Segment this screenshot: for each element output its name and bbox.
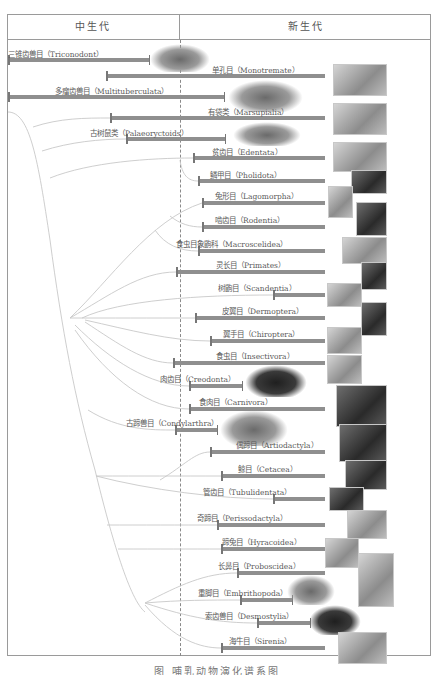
branch-marsupialia xyxy=(33,118,110,127)
fox-image xyxy=(336,385,387,427)
anteater-image xyxy=(333,142,387,172)
elephant-image xyxy=(358,553,394,607)
order-label-cetacea: 鲸目（Cetacea） xyxy=(238,463,297,474)
pangolin-image xyxy=(351,170,387,194)
range-bar-dermoptera xyxy=(195,316,325,320)
order-label-tubulidentata: 管齿目（Tubulidentata） xyxy=(203,486,291,497)
fossil-arsinoitherium-image xyxy=(287,575,335,605)
order-label-hyracoidea: 蹄兔目（Hyracoidea） xyxy=(222,536,301,547)
range-bar-scandentia xyxy=(273,293,325,297)
order-label-macroscelidea: 食虫目象鼩科（Macroscelidea） xyxy=(176,238,287,249)
fossil-reptile-like-image xyxy=(150,44,210,72)
echidna-image xyxy=(333,64,387,96)
range-bar-lagomorpha xyxy=(202,201,325,205)
range-bar-desmostylia xyxy=(257,621,311,625)
fossil-desmostylus-image xyxy=(309,605,361,635)
figure-caption: 图 哺乳动物演化谱系图 xyxy=(0,664,434,675)
range-bar-primates xyxy=(176,270,325,274)
order-label-chiroptera: 翼手目（Chiroptera） xyxy=(223,328,299,339)
hyrax-image xyxy=(325,538,359,568)
order-label-palaeoryctoids: 古树鼠类（Palaeoryctoids） xyxy=(90,127,188,138)
range-bar-rodentia xyxy=(202,225,325,229)
order-label-edentata: 贫齿目（Edentata） xyxy=(212,146,282,157)
range-bar-perissodactyla xyxy=(217,523,325,527)
hedgehog-image xyxy=(327,355,362,384)
order-label-carnivora: 食肉目（Carnivora） xyxy=(199,396,272,407)
zebra-image xyxy=(347,510,387,539)
aardvark-image xyxy=(329,487,364,511)
deer-image xyxy=(339,424,387,462)
colugo-image xyxy=(361,302,387,336)
order-label-perissodactyla: 奇蹄目（Perissodactyla） xyxy=(197,512,287,523)
range-bar-hyracoidea xyxy=(221,547,325,551)
range-bar-embrithopoda xyxy=(240,598,293,602)
order-label-dermoptera: 皮翼目（Dermoptera） xyxy=(222,305,303,316)
order-label-proboscidea: 长鼻目（Proboscidea） xyxy=(218,560,300,571)
order-label-creodonta: 肉齿目（Creodonta） xyxy=(160,373,235,384)
range-bar-artiodactyla xyxy=(210,450,325,454)
order-label-marsupialia: 有袋类（Marsupialia） xyxy=(208,106,288,117)
bat-image xyxy=(327,327,362,354)
rodent-image xyxy=(356,202,387,236)
order-label-desmostylia: 索齿兽目（Desmostylia） xyxy=(205,610,293,621)
fossil-shrew-like-image xyxy=(233,122,301,146)
range-bar-chiroptera xyxy=(210,339,325,343)
order-label-triconodont: 三锥齿兽目（Triconodont） xyxy=(8,48,103,59)
order-label-embrithopoda: 重脚目（Embrithopoda） xyxy=(198,587,287,598)
order-label-sirenia: 海牛目（Sirenia） xyxy=(229,635,291,646)
whale-image xyxy=(345,460,387,490)
order-label-lagomorpha: 兔形目（Lagomorpha） xyxy=(215,190,298,201)
order-label-primates: 灵长目（Primates） xyxy=(216,259,285,270)
trunk-branch xyxy=(8,112,145,612)
tree-shrew-image xyxy=(327,283,362,307)
order-label-scandentia: 树鼩目（Scandentia） xyxy=(218,282,296,293)
order-label-monotremata: 单孔目（Monotremate） xyxy=(212,64,299,75)
order-label-artiodactyla: 偶蹄目（Artiodactyla） xyxy=(236,439,318,450)
range-bar-tubulidentata xyxy=(273,497,325,501)
range-bar-creodonta xyxy=(189,384,243,388)
range-bar-condylarthra xyxy=(175,428,218,432)
order-label-pholidota: 鳞甲目（Pholidota） xyxy=(210,169,281,180)
order-label-insectivora: 食虫目（Insectivora） xyxy=(216,350,294,361)
range-bar-cetacea xyxy=(221,474,325,478)
manatee-image xyxy=(338,632,387,664)
fossil-hyena-like-image xyxy=(245,365,307,397)
chimpanzee-image xyxy=(361,262,387,290)
order-label-multituberculata: 多瘤齿兽目（Multituberculata） xyxy=(55,85,168,96)
order-label-condylarthra: 古蹄兽目（Condylarthra） xyxy=(126,417,218,428)
elephant-shrew-image xyxy=(342,237,387,264)
range-bar-macroscelidea xyxy=(198,249,325,253)
range-bar-sirenia xyxy=(221,646,325,650)
rabbit-image xyxy=(328,186,353,218)
order-label-rodentia: 啮齿目（Rodentia） xyxy=(215,214,284,225)
marsupial-image xyxy=(333,103,387,135)
